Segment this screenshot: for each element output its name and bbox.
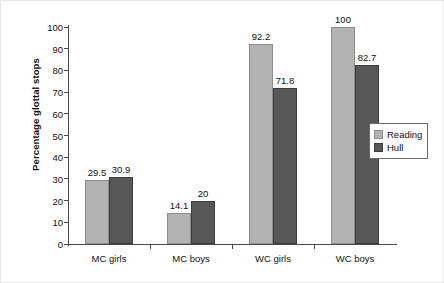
x-tick-mark [150,244,151,249]
y-tick-mark [64,48,68,49]
chart-figure: Percentage glottal stops 010203040506070… [0,0,444,283]
y-tick-label: 30 [52,173,63,184]
y-axis-title: Percentage glottal stops [30,15,41,215]
y-tick-mark [64,178,68,179]
y-tick-label: 80 [52,65,63,76]
bar-value-label: 71.8 [265,75,305,86]
x-tick-mark [232,244,233,249]
plot-area: 0102030405060708090100 29.530.914.12092.… [68,27,396,244]
y-tick-label: 10 [52,217,63,228]
legend-label: Reading [387,129,422,140]
y-tick-mark [64,135,68,136]
bar-value-label: 100 [323,14,363,25]
legend-label: Hull [387,142,403,153]
y-tick-mark [64,70,68,71]
y-tick-mark [64,222,68,223]
bar [273,88,297,244]
y-tick-label: 100 [47,22,63,33]
y-tick-label: 0 [58,239,63,250]
legend-swatch-icon [374,143,383,152]
x-category-label: WC boys [310,253,400,264]
y-tick-label: 70 [52,87,63,98]
bar [167,213,191,244]
y-tick-label: 90 [52,43,63,54]
bar-value-label: 30.9 [101,164,141,175]
y-tick-mark [64,200,68,201]
bar-value-label: 92.2 [241,31,281,42]
y-tick-label: 60 [52,108,63,119]
y-tick-mark [64,113,68,114]
y-tick-mark [64,92,68,93]
y-tick-mark [64,244,68,245]
legend-swatch-icon [374,130,383,139]
bar [191,201,215,244]
y-tick-label: 20 [52,195,63,206]
y-tick-label: 50 [52,130,63,141]
x-category-label: MC boys [146,253,236,264]
bar [109,177,133,244]
bar [249,44,273,244]
x-category-label: MC girls [64,253,154,264]
y-tick-mark [64,157,68,158]
x-category-label: WC girls [228,253,318,264]
bar-value-label: 20 [183,188,223,199]
legend-item[interactable]: Hull [374,141,422,154]
x-tick-mark [314,244,315,249]
y-tick-mark [64,27,68,28]
y-tick-label: 40 [52,152,63,163]
bar-value-label: 82.7 [347,52,387,63]
bar [85,180,109,244]
legend-item[interactable]: Reading [374,128,422,141]
legend: ReadingHull [369,123,428,159]
